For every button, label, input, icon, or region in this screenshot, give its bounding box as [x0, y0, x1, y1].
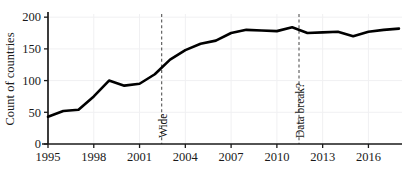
x-tick-label: 2004: [173, 150, 199, 164]
chart-background: [0, 0, 413, 172]
y-tick-label: 100: [22, 74, 41, 88]
y-tick-label: 50: [29, 106, 42, 120]
x-tick-label: 1995: [36, 150, 61, 164]
x-tick-label: 2007: [219, 150, 244, 164]
x-tick-label: 1998: [81, 150, 106, 164]
line-chart: 0501001502001995199820012004200720102013…: [0, 0, 413, 172]
x-tick-label: 2001: [127, 150, 152, 164]
x-tick-label: 2010: [264, 150, 289, 164]
annotation-label: Data break?: [294, 83, 306, 138]
y-tick-label: 200: [22, 10, 41, 24]
y-axis-label: Count of countries: [3, 32, 17, 125]
x-tick-label: 2016: [356, 150, 381, 164]
annotation-label: Wide: [157, 114, 169, 138]
y-tick-label: 150: [22, 42, 41, 56]
y-axis-title: Count of countries: [3, 32, 17, 125]
x-tick-label: 2013: [310, 150, 335, 164]
chart-canvas: 0501001502001995199820012004200720102013…: [0, 0, 413, 172]
